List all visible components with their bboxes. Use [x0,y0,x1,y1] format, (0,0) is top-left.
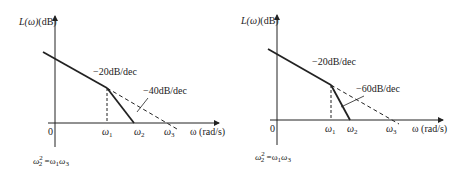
left-slope-40-line [107,88,134,123]
left-formula: ω22 =ω1ω3 [33,155,69,168]
left-slope1-label: −20dB/dec [93,67,137,77]
left-y-axis-label: L(ω)(dB) [19,17,57,27]
left-ylabel-unit: (dB) [38,16,56,27]
right-ylabel-unit: (dB) [260,15,278,26]
right-slope1-label: −20dB/dec [312,57,356,67]
right-formula: ω22 =ω1ω3 [255,151,291,164]
left-w2-tick-label: ω2 [134,127,145,139]
left-w1-tick-label: ω1 [102,127,113,139]
right-y-axis-label: L(ω)(dB) [241,16,279,26]
right-origin-label: 0 [270,124,275,134]
right-w1-tick-label: ω1 [325,124,336,136]
left-origin-label: 0 [48,127,53,137]
left-slope2-leader [137,98,148,112]
left-ylabel-main: L(ω) [19,16,38,27]
right-ylabel-main: L(ω) [241,15,260,26]
left-w3-tick-label: ω3 [164,127,175,139]
right-slope2-label: −60dB/dec [356,84,400,94]
right-x-axis-label: ω (rad/s) [412,124,447,134]
left-x-axis-label: ω (rad/s) [190,127,225,137]
right-w3-tick-label: ω3 [386,124,397,136]
right-w2-tick-label: ω2 [347,124,358,136]
left-slope2-label: −40dB/dec [143,86,187,96]
